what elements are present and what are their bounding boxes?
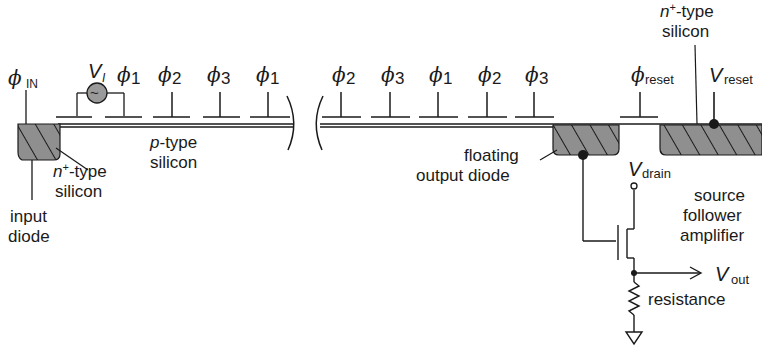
- svg-text:source: source: [694, 186, 745, 205]
- p-type-silicon-label: p-type silicon: [149, 133, 197, 172]
- svg-text:V: V: [709, 64, 724, 86]
- svg-text:ϕ: ϕ: [332, 63, 346, 87]
- reset-drain-region: [660, 45, 762, 155]
- vi-ac-source: [77, 83, 124, 116]
- gate-label-left-2: ϕ 3: [207, 63, 230, 88]
- svg-text:ϕ: ϕ: [8, 66, 22, 90]
- svg-text:silicon: silicon: [55, 182, 102, 201]
- floating-output-diode-label: floating output diode: [416, 146, 519, 185]
- svg-text:reset: reset: [724, 72, 753, 87]
- svg-text:ϕ: ϕ: [207, 63, 221, 87]
- svg-text:out: out: [731, 272, 749, 287]
- svg-text:silicon: silicon: [150, 153, 197, 172]
- floating-diode-contact: [578, 150, 588, 160]
- svg-text:IN: IN: [26, 77, 38, 91]
- svg-text:drain: drain: [642, 166, 671, 181]
- svg-text:2: 2: [346, 69, 355, 88]
- ccd-diagram: ϕ IN ~ V I ϕ 1 ϕ 2 ϕ 3 ϕ 1: [0, 0, 762, 356]
- gate-label-right-4: ϕ 3: [525, 63, 548, 88]
- svg-text:p-type: p-type: [149, 133, 197, 152]
- svg-text:I: I: [102, 71, 106, 85]
- source-follower-circuit: [583, 155, 701, 344]
- svg-text:diode: diode: [8, 227, 50, 246]
- svg-text:follower: follower: [683, 206, 742, 225]
- svg-text:1: 1: [270, 69, 279, 88]
- substrate-surface-left: [58, 124, 293, 127]
- gate-label-left-0: ϕ 1: [117, 63, 140, 88]
- svg-text:3: 3: [395, 69, 404, 88]
- svg-text:ϕ: ϕ: [381, 63, 395, 87]
- svg-text:ϕ: ϕ: [631, 63, 645, 87]
- v-reset-label: V reset: [709, 64, 753, 87]
- svg-text:1: 1: [131, 69, 140, 88]
- svg-text:n+-type: n+-type: [53, 161, 107, 181]
- svg-text:ϕ: ϕ: [525, 63, 539, 87]
- n-type-silicon-right-label: n+-type silicon: [660, 1, 714, 41]
- svg-text:reset: reset: [645, 72, 674, 87]
- svg-text:output diode: output diode: [416, 166, 510, 185]
- gate-label-right-1: ϕ 3: [381, 63, 404, 88]
- gate-label-right-3: ϕ 2: [478, 63, 501, 88]
- phi-reset-label: ϕ reset: [631, 63, 674, 87]
- svg-text:V: V: [88, 60, 103, 82]
- svg-text:2: 2: [492, 69, 501, 88]
- svg-text:ϕ: ϕ: [478, 63, 492, 87]
- v-drain-label: V drain: [628, 158, 671, 181]
- gate-label-right-0: ϕ 2: [332, 63, 355, 88]
- svg-text:V: V: [715, 263, 730, 285]
- n-type-silicon-left-label: n+-type silicon: [53, 161, 107, 201]
- gate-label-left-3: ϕ 1: [256, 63, 279, 88]
- svg-text:ϕ: ϕ: [117, 63, 131, 87]
- ac-source-icon: ~: [90, 84, 99, 101]
- svg-text:input: input: [10, 207, 47, 226]
- svg-text:1: 1: [443, 69, 452, 88]
- v-drain-terminal: [631, 183, 637, 189]
- phi-in-label: ϕ IN: [8, 66, 38, 91]
- svg-text:ϕ: ϕ: [158, 63, 172, 87]
- input-diode-label: input diode: [8, 207, 50, 246]
- svg-text:floating: floating: [464, 146, 519, 165]
- v-out-label: V out: [715, 263, 749, 287]
- reset-gate: [620, 92, 658, 117]
- svg-text:2: 2: [172, 69, 181, 88]
- gate-label-right-2: ϕ 1: [429, 63, 452, 88]
- resistance-label: resistance: [648, 290, 725, 309]
- output-node: [631, 270, 637, 276]
- gate-label-left-1: ϕ 2: [158, 63, 181, 88]
- svg-text:3: 3: [539, 69, 548, 88]
- svg-text:ϕ: ϕ: [256, 63, 270, 87]
- svg-text:V: V: [628, 158, 643, 180]
- ccd-cross-section-svg: ϕ IN ~ V I ϕ 1 ϕ 2 ϕ 3 ϕ 1: [0, 0, 762, 356]
- svg-text:silicon: silicon: [662, 22, 709, 41]
- svg-text:3: 3: [221, 69, 230, 88]
- source-follower-label: source follower amplifier: [680, 186, 745, 245]
- svg-text:n+-type: n+-type: [660, 1, 714, 21]
- svg-text:ϕ: ϕ: [429, 63, 443, 87]
- gate-electrodes-right: [322, 92, 554, 117]
- vi-label: V I: [88, 60, 106, 85]
- break-marks-icon: [287, 96, 323, 150]
- svg-text:amplifier: amplifier: [680, 226, 745, 245]
